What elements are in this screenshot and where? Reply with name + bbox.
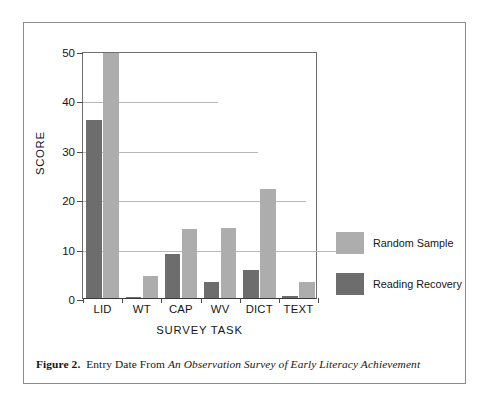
chart-legend: Random Sample Reading Recovery [336,232,461,314]
x-axis-label-dict: DICT [246,303,273,315]
legend-label-reading-recovery: Reading Recovery [373,278,462,290]
y-tick-label-50: 50 [62,47,75,59]
y-tick-40 [77,102,83,103]
y-tick-label-40: 40 [62,96,75,108]
x-axis-label-lid: LID [93,303,111,315]
caption-body: Entry Date From [86,358,168,370]
bar-wv-random-sample [221,228,237,298]
x-axis-label-wv: WV [211,303,230,315]
x-tick-text [279,298,280,303]
legend-swatch-reading-recovery [336,273,364,295]
y-axis-title: SCORE [34,131,46,175]
x-tick-wt [122,298,123,303]
x-axis-label-text: TEXT [284,303,314,315]
bar-wv-reading-recovery [204,282,220,298]
bar-wt-reading-recovery [126,297,142,298]
legend-item-reading-recovery: Reading Recovery [336,273,461,295]
y-tick-label-20: 20 [62,195,75,207]
legend-swatch-random-sample [336,232,364,254]
figure-caption: Figure 2. Entry Date From An Observation… [36,358,456,370]
y-tick-10 [77,251,83,252]
legend-label-random-sample: Random Sample [373,237,453,249]
gridline-10 [83,251,353,252]
x-tick-dict [240,298,241,303]
x-tick-cap [161,298,162,303]
bar-wt-random-sample [143,276,159,298]
bar-dict-reading-recovery [243,270,259,298]
y-tick-30 [77,152,83,153]
y-tick-label-10: 10 [62,245,75,257]
bar-text-reading-recovery [282,296,298,298]
legend-item-random-sample: Random Sample [336,232,461,254]
bar-text-random-sample [299,282,315,298]
plot-area: 01020304050LIDWTCAPWVDICTTEXT [82,52,317,299]
bar-lid-random-sample [103,53,119,298]
bar-dict-random-sample [260,189,276,298]
bar-cap-reading-recovery [165,254,181,298]
x-tick-lid [83,298,84,303]
y-tick-20 [77,201,83,202]
bar-lid-reading-recovery [86,120,102,298]
y-tick-50 [77,53,83,54]
x-axis-label-wt: WT [133,303,151,315]
x-axis-label-cap: CAP [169,303,193,315]
x-tick-wv [201,298,202,303]
bar-chart: SCORE 01020304050LIDWTCAPWVDICTTEXT SURV… [0,0,491,407]
bar-cap-random-sample [182,229,198,298]
y-tick-label-0: 0 [69,294,75,306]
x-axis-title: SURVEY TASK [82,324,317,336]
y-tick-label-30: 30 [62,146,75,158]
caption-figure-number: Figure 2. [36,358,80,370]
caption-title-italic: An Observation Survey of Early Literacy … [168,358,420,370]
x-tick-end [318,298,319,303]
